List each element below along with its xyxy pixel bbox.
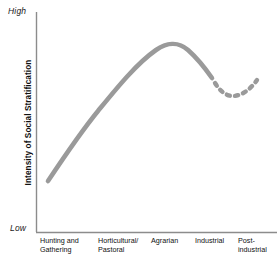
x-tick-line-1: Horticultural/ [98, 236, 138, 245]
x-tick-line-2: Gathering [40, 245, 79, 254]
chart-plot-area [0, 0, 278, 268]
x-tick-hunting-and-gathering: Hunting and Gathering [40, 236, 79, 254]
x-tick-post-industrial: Post- industrial [238, 236, 267, 254]
x-tick-industrial: Industrial [195, 236, 224, 245]
x-tick-line-1: Industrial [195, 236, 224, 245]
x-tick-line-1: Hunting and [40, 236, 79, 245]
x-tick-line-1: Post- [238, 236, 255, 245]
trend-line-dashed [215, 80, 257, 96]
x-tick-line-1: Agrarian [151, 236, 178, 245]
x-tick-line-2: industrial [238, 245, 267, 254]
x-tick-line-2: Pastoral [98, 245, 138, 254]
y-axis-high-label: High [8, 6, 26, 16]
chart-container: High Low Intensity of Social Stratificat… [0, 0, 278, 268]
x-axis-tick-labels: Hunting and Gathering Horticultural/ Pas… [0, 236, 278, 266]
y-axis-title: Intensity of Social Stratification [24, 33, 33, 213]
y-axis-low-label: Low [10, 223, 26, 233]
x-tick-agrarian: Agrarian [151, 236, 178, 245]
trend-line-solid [48, 44, 212, 181]
x-tick-horticultural-pastoral: Horticultural/ Pastoral [98, 236, 138, 254]
